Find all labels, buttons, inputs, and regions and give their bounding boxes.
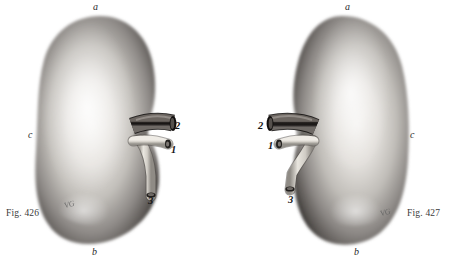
label-c-right: c <box>410 130 414 140</box>
label-a-right: a <box>345 2 350 12</box>
label-3-right: 3 <box>288 195 293 206</box>
label-3-left: 3 <box>148 196 153 207</box>
label-b-right: b <box>354 247 359 257</box>
kidney-illustration-left <box>0 0 232 262</box>
label-c-left: c <box>28 130 32 140</box>
caption-figure-426: Fig. 426 <box>6 209 39 219</box>
renal-vein-left <box>132 116 176 131</box>
figure-427: a c b 2 1 3 VG Fig. 427 <box>232 0 464 262</box>
figure-426: a c b 2 1 3 VG Fig. 426 <box>0 0 232 262</box>
renal-vein-right <box>267 116 316 131</box>
kidney-illustration-right <box>232 0 464 262</box>
anatomical-plate: a c b 2 1 3 VG Fig. 426 <box>0 0 464 262</box>
label-2-right: 2 <box>258 121 263 132</box>
label-1-left: 1 <box>171 145 176 156</box>
label-a-left: a <box>93 2 98 12</box>
caption-figure-427: Fig. 427 <box>407 209 440 219</box>
label-1-right: 1 <box>268 141 273 152</box>
label-2-left: 2 <box>175 121 180 132</box>
label-b-left: b <box>92 247 97 257</box>
